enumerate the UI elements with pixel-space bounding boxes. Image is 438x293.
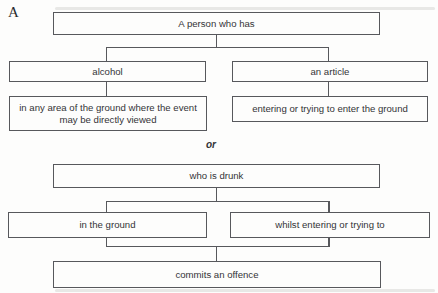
node-drunk-label: who is drunk [186, 170, 248, 182]
figure-label: A [8, 4, 19, 21]
node-person-label: A person who has [174, 18, 258, 30]
node-alcohol-label: alcohol [88, 66, 126, 78]
connector-to-article [328, 47, 330, 62]
node-article-label: an article [307, 66, 354, 78]
node-an-article: an article [232, 61, 428, 82]
connector-article-to-entering [328, 81, 330, 97]
node-whilst-entering: whilst entering or trying to [230, 212, 430, 238]
node-who-is-drunk: who is drunk [53, 164, 380, 188]
connector-top-split [106, 47, 330, 49]
node-area-directly-viewed: in any area of the ground where the even… [9, 96, 207, 131]
connector-bottom-merge [106, 246, 330, 248]
node-entering-ground: entering or trying to enter the ground [232, 96, 428, 122]
connector-bottom-split [106, 201, 330, 203]
node-whilst-label: whilst entering or trying to [271, 219, 388, 231]
scan-artifact-top [55, 7, 435, 10]
node-commits-offence: commits an offence [53, 261, 381, 288]
connector-to-alcohol [106, 47, 108, 62]
node-offence-label: commits an offence [171, 269, 262, 281]
connector-alcohol-to-area [106, 81, 108, 97]
node-area-label: in any area of the ground where the even… [10, 102, 206, 126]
node-in-the-ground: in the ground [8, 212, 207, 238]
node-alcohol: alcohol [9, 61, 206, 82]
node-ground-label: in the ground [75, 219, 139, 231]
connector-to-offence [216, 246, 218, 263]
flowchart-figure: A A person who has alcohol an article in… [0, 0, 438, 293]
or-separator: or [196, 139, 226, 150]
node-entering-label: entering or trying to enter the ground [248, 103, 412, 115]
scan-artifact-bottom [55, 289, 435, 292]
node-person-who-has: A person who has [53, 12, 380, 35]
